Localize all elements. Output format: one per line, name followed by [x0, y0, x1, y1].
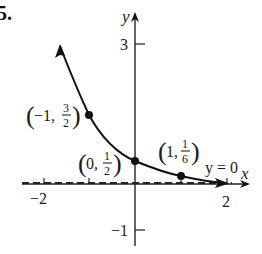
point-label-neg1: ( −1, 3 2 )	[26, 101, 81, 130]
svg-text:): )	[72, 101, 81, 130]
svg-text:2: 2	[63, 116, 69, 130]
svg-text:1: 1	[182, 137, 188, 151]
point-label-0: ( 0, 1 2 )	[78, 149, 122, 178]
point-1	[177, 172, 185, 180]
asymptote-label: y = 0	[205, 159, 238, 177]
x-axis-label: x	[240, 164, 249, 183]
svg-text:6: 6	[182, 152, 188, 166]
x-tick-label--2: −2	[30, 190, 47, 207]
svg-text:1,: 1,	[166, 143, 178, 160]
point-label-1: ( 1, 1 6 )	[158, 137, 200, 166]
y-tick-label--1: −1	[111, 222, 128, 239]
point-neg1	[85, 111, 93, 119]
svg-text:): )	[191, 137, 200, 166]
point-0	[131, 157, 139, 165]
svg-text:): )	[113, 149, 122, 178]
x-tick-label-2: 2	[222, 193, 230, 210]
y-axis-label: y	[120, 7, 130, 26]
problem-number: 5.	[0, 2, 12, 24]
graph: 5. −2 2 3 −1 y x ( −1, 3 2 ) ( 0, 1 2 )	[0, 0, 262, 254]
svg-text:2: 2	[104, 164, 110, 178]
y-tick-label-3: 3	[120, 36, 128, 53]
svg-text:−1,: −1,	[34, 107, 55, 124]
svg-text:3: 3	[63, 101, 69, 115]
svg-text:1: 1	[104, 149, 110, 163]
svg-text:0,: 0,	[86, 155, 98, 172]
